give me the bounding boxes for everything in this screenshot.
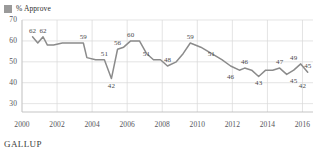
x-tick-label: 2000 <box>7 121 37 129</box>
plot-svg <box>0 16 317 120</box>
gallup-approval-chart: % Approve 3040506070 2000200220042006200… <box>0 0 317 157</box>
approval-line-series <box>33 37 308 79</box>
gallup-brand-label: GALLUP <box>4 139 42 150</box>
plot-area <box>0 16 317 120</box>
x-tick-label: 2014 <box>252 121 282 129</box>
legend-label: % Approve <box>16 4 51 13</box>
x-tick-label: 2008 <box>147 121 177 129</box>
vertical-gridlines <box>22 20 302 112</box>
x-tick-label: 2012 <box>217 121 247 129</box>
legend-swatch-icon <box>4 5 12 13</box>
x-tick-label: 2006 <box>112 121 142 129</box>
x-tick-label: 2010 <box>182 121 212 129</box>
chart-legend: % Approve <box>4 3 51 14</box>
x-tick-label: 2002 <box>42 121 72 129</box>
horizontal-gridlines <box>22 20 313 104</box>
x-tick-label: 2016 <box>287 121 317 129</box>
x-tick-label: 2004 <box>77 121 107 129</box>
